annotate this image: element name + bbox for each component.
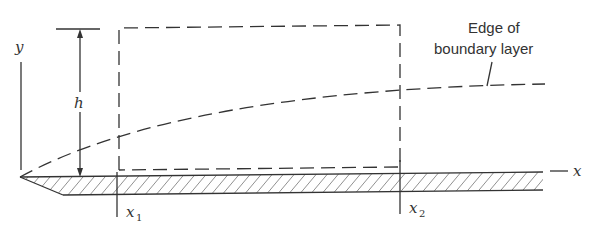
x1-label: x <box>126 203 135 221</box>
arrow-up-icon <box>77 29 83 38</box>
annotation-line1: Edge of <box>468 19 521 36</box>
arrow-down-icon <box>77 168 83 177</box>
y-axis-label: y <box>14 38 24 56</box>
x2-label: x <box>409 199 418 217</box>
control-volume-box <box>119 25 400 170</box>
x-axis-label: x <box>573 162 582 180</box>
annotation-line2: boundary layer <box>434 40 533 57</box>
x2-subscript: 2 <box>419 208 425 219</box>
boundary-layer-edge <box>20 84 545 177</box>
height-label: h <box>74 94 84 112</box>
x1-subscript: 1 <box>136 212 142 223</box>
flat-plate <box>20 172 543 195</box>
boundary-layer-diagram: y x Edge of boundary layer h x 1 x 2 <box>0 0 598 243</box>
annotation-leader-line <box>487 62 492 86</box>
